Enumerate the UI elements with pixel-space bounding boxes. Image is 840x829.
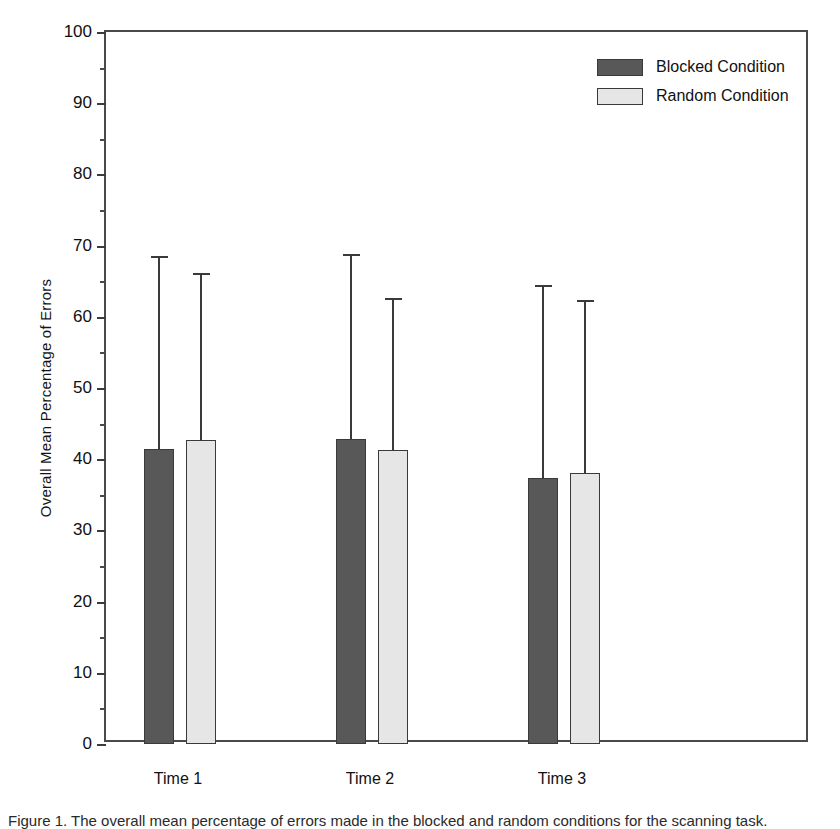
figure-caption: Figure 1. The overall mean percentage of… — [8, 812, 832, 829]
y-axis-tick-minor — [100, 637, 106, 639]
error-bar-cap — [151, 256, 168, 258]
bar-random-condition-time-1 — [186, 440, 216, 744]
y-axis-tick-minor — [100, 281, 106, 283]
y-axis-tick-minor — [100, 210, 106, 212]
y-axis-tick-label: 100 — [64, 22, 92, 42]
figure-container: Overall Mean Percentage of Errors 010203… — [0, 0, 840, 829]
y-axis-title-text: Overall Mean Percentage of Errors — [37, 248, 54, 548]
y-axis-tick-major — [97, 246, 106, 248]
x-axis-label-time-3: Time 3 — [538, 770, 586, 788]
y-axis-tick-major — [97, 174, 106, 176]
bar-blocked-condition-time-1 — [144, 449, 174, 744]
y-axis-tick-minor — [100, 566, 106, 568]
plot-inner: 0102030405060708090100 — [106, 32, 806, 740]
y-axis-tick-major — [97, 602, 106, 604]
y-axis-tick-minor — [100, 139, 106, 141]
bar-random-condition-time-3 — [570, 473, 600, 744]
y-axis-tick-label: 20 — [73, 592, 92, 612]
legend-item-random-condition: Random Condition — [597, 83, 807, 109]
y-axis-tick-label: 30 — [73, 520, 92, 540]
error-bar-line — [392, 298, 394, 450]
y-axis-tick-label: 80 — [73, 164, 92, 184]
error-bar-line — [158, 256, 160, 449]
y-axis-tick-minor — [100, 68, 106, 70]
error-bar-cap — [577, 300, 594, 302]
bar-blocked-condition-time-3 — [528, 478, 558, 744]
y-axis-tick-minor — [100, 424, 106, 426]
y-axis-tick-minor — [100, 352, 106, 354]
y-axis-tick-major — [97, 744, 106, 746]
chart-legend: Blocked ConditionRandom Condition — [597, 54, 807, 112]
bar-blocked-condition-time-2 — [336, 439, 366, 744]
legend-label: Blocked Condition — [656, 58, 785, 76]
error-bar-cap — [385, 298, 402, 300]
y-axis-tick-major — [97, 459, 106, 461]
y-axis-tick-label: 50 — [73, 378, 92, 398]
x-axis-label-time-2: Time 2 — [346, 770, 394, 788]
y-axis-tick-major — [97, 673, 106, 675]
y-axis-tick-minor — [100, 495, 106, 497]
y-axis-tick-major — [97, 317, 106, 319]
error-bar-line — [542, 285, 544, 477]
y-axis-tick-label: 70 — [73, 236, 92, 256]
y-axis-title: Overall Mean Percentage of Errors — [17, 0, 34, 248]
y-axis-tick-major — [97, 103, 106, 105]
y-axis-tick-minor — [100, 708, 106, 710]
error-bar-cap — [343, 254, 360, 256]
error-bar-line — [584, 300, 586, 472]
error-bar-cap — [535, 285, 552, 287]
legend-swatch-icon — [597, 88, 643, 105]
plot-area: 0102030405060708090100 — [104, 30, 808, 742]
error-bar-line — [350, 254, 352, 439]
y-axis-tick-label: 90 — [73, 93, 92, 113]
legend-swatch-icon — [597, 59, 643, 76]
x-axis-label-time-1: Time 1 — [154, 770, 202, 788]
y-axis-tick-major — [97, 530, 106, 532]
error-bar-cap — [193, 273, 210, 275]
y-axis-tick-major — [97, 32, 106, 34]
legend-item-blocked-condition: Blocked Condition — [597, 54, 807, 80]
y-axis-tick-label: 0 — [83, 734, 92, 754]
bar-random-condition-time-2 — [378, 450, 408, 744]
y-axis-tick-label: 40 — [73, 449, 92, 469]
y-axis-tick-label: 60 — [73, 307, 92, 327]
legend-label: Random Condition — [656, 87, 789, 105]
y-axis-tick-major — [97, 388, 106, 390]
error-bar-line — [200, 273, 202, 440]
y-axis-tick-label: 10 — [73, 663, 92, 683]
